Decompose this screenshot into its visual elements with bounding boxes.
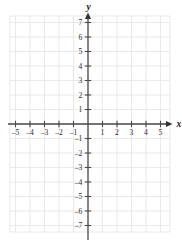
- coordinate-plane-canvas: –5–4–3–2–1123457654321–1–2–3–4–5–6–7 xy: [0, 0, 182, 248]
- x-tick-label: 4: [144, 128, 148, 137]
- y-tick-label: 3: [79, 76, 83, 85]
- coordinate-plane-figure: –5–4–3–2–1123457654321–1–2–3–4–5–6–7 xy: [0, 0, 182, 248]
- x-tick-label: 1: [101, 128, 105, 137]
- y-tick-label: –6: [74, 207, 83, 216]
- x-tick-label: 5: [159, 128, 163, 137]
- y-tick-label: –2: [74, 149, 83, 158]
- y-tick-label: 4: [79, 62, 83, 71]
- y-tick-label: –4: [74, 178, 83, 187]
- y-tick-label: 6: [79, 33, 83, 42]
- y-tick-label: –3: [74, 163, 83, 172]
- y-axis-name-label: y: [85, 2, 91, 12]
- y-tick-label: 7: [79, 18, 83, 27]
- y-tick-label: 5: [79, 47, 83, 56]
- y-tick-label: –7: [74, 221, 83, 230]
- x-tick-label: –5: [11, 128, 20, 137]
- x-axis-name-label: x: [176, 119, 182, 129]
- x-tick-label: –3: [40, 128, 49, 137]
- y-tick-label: 2: [79, 91, 83, 100]
- x-tick-label: 3: [130, 128, 134, 137]
- x-tick-label: 2: [115, 128, 119, 137]
- x-tick-label: –2: [54, 128, 63, 137]
- y-tick-label: –1: [74, 134, 83, 143]
- y-tick-label: –5: [74, 192, 83, 201]
- x-tick-label: –4: [25, 128, 34, 137]
- y-tick-label: 1: [79, 105, 83, 114]
